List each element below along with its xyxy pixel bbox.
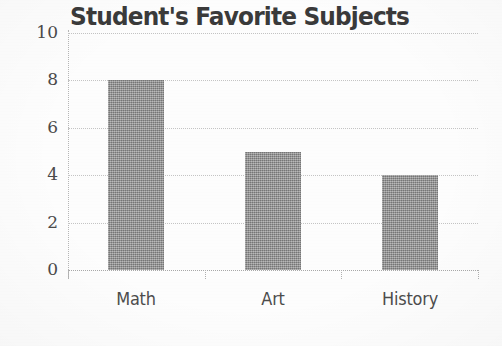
bar-math[interactable] (108, 80, 164, 270)
x-tick-label-history: History (334, 289, 486, 309)
gridline-10 (68, 33, 478, 34)
x-tick-label-art: Art (197, 289, 349, 309)
bar-art[interactable] (245, 152, 301, 271)
y-tick-label-0: 0 (18, 261, 58, 278)
chart-title: Student's Favorite Subjects (70, 1, 405, 33)
bar-history[interactable] (382, 175, 438, 270)
y-tick-label-6: 6 (18, 119, 58, 136)
x-axis-tick-2 (341, 270, 342, 279)
y-tick-label-4: 4 (18, 166, 58, 183)
x-tick-label-math: Math (60, 289, 212, 309)
bar-chart-figure: Student's Favorite Subjects 1086420 Math… (0, 0, 502, 346)
y-tick-label-10: 10 (18, 24, 58, 41)
x-axis-tick-0 (68, 270, 69, 279)
x-axis-tick-3 (478, 270, 479, 279)
plot-area (68, 33, 478, 270)
y-tick-label-2: 2 (18, 214, 58, 231)
gridline-0 (68, 270, 478, 271)
x-axis-tick-1 (205, 270, 206, 279)
y-tick-label-8: 8 (18, 71, 58, 88)
